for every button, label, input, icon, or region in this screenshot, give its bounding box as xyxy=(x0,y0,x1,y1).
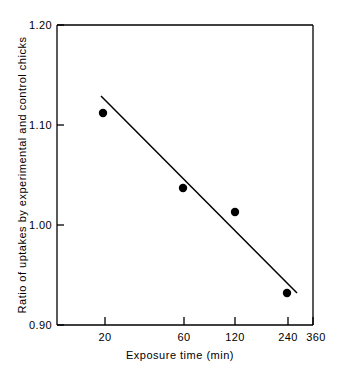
data-point xyxy=(283,289,291,297)
y-tick-label-1-10: 1.10 xyxy=(29,119,52,131)
y-tick-marks xyxy=(57,25,64,325)
axes-frame xyxy=(57,25,313,325)
y-tick-label-0-90: 0.90 xyxy=(29,319,52,331)
x-tick-label-20: 20 xyxy=(98,331,111,343)
data-points xyxy=(99,109,291,297)
data-point xyxy=(179,184,187,192)
y-axis-title: Ratio of uptakes by experimental and con… xyxy=(16,37,28,314)
x-tick-label-360: 360 xyxy=(306,331,326,343)
y-tick-labels: 1.20 1.10 1.00 0.90 xyxy=(29,19,52,331)
data-point xyxy=(99,109,107,117)
x-axis-title: Exposure time (min) xyxy=(126,349,234,361)
chart-canvas: 1.20 1.10 1.00 0.90 20 60 120 240 360 Ra… xyxy=(0,0,337,369)
x-tick-label-120: 120 xyxy=(225,331,245,343)
y-tick-label-1-20: 1.20 xyxy=(29,19,52,31)
x-tick-marks xyxy=(105,317,313,325)
x-tick-labels: 20 60 120 240 360 xyxy=(98,331,325,343)
data-point xyxy=(231,208,239,216)
regression-line xyxy=(101,96,297,293)
x-tick-label-240: 240 xyxy=(278,331,298,343)
x-tick-label-60: 60 xyxy=(177,331,190,343)
y-tick-label-1-00: 1.00 xyxy=(29,219,52,231)
figure-container: 1.20 1.10 1.00 0.90 20 60 120 240 360 Ra… xyxy=(0,0,337,369)
